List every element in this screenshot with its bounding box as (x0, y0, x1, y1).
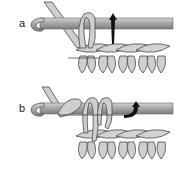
yarn-loop (79, 13, 96, 48)
crochet-hook (31, 18, 173, 31)
crochet-illustration-b (0, 85, 184, 170)
panel-b: b (0, 85, 184, 170)
crochet-illustration-a (0, 0, 184, 85)
stitch-row-legs (78, 142, 165, 159)
panel-a: a (0, 0, 184, 85)
stitch-row-legs (78, 56, 165, 73)
stitch-row-chain (76, 130, 170, 139)
